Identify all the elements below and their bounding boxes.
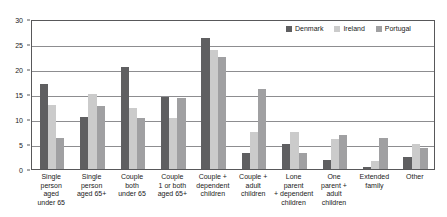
legend-swatch-icon <box>286 26 292 32</box>
y-tick-label: 25 <box>15 42 23 49</box>
y-tick-mark <box>27 145 30 146</box>
bar <box>40 84 48 169</box>
bar-group <box>396 21 436 169</box>
bar <box>299 153 307 169</box>
legend-label: Ireland <box>343 25 364 33</box>
bar <box>403 157 411 170</box>
legend-entry: Denmark <box>286 25 323 33</box>
bar <box>48 105 56 169</box>
y-tick-mark <box>27 170 30 171</box>
bar <box>290 132 298 169</box>
bar <box>218 57 226 170</box>
bar-group <box>153 21 193 169</box>
bar <box>129 108 137 170</box>
bars-layer <box>32 21 434 169</box>
bar-group <box>234 21 274 169</box>
y-tick-mark <box>27 20 30 21</box>
bar <box>331 139 339 169</box>
bar <box>323 160 331 170</box>
y-tick-mark <box>27 45 30 46</box>
y-tick-label: 20 <box>15 67 23 74</box>
bar <box>420 148 428 169</box>
bar-group <box>194 21 234 169</box>
bar <box>371 161 379 169</box>
bar <box>412 144 420 169</box>
bar <box>363 167 371 170</box>
bar-group <box>274 21 314 169</box>
y-tick-label: 30 <box>15 17 23 24</box>
bar <box>121 67 129 169</box>
legend-label: Denmark <box>295 25 323 33</box>
legend-label: Portugal <box>385 25 411 33</box>
y-tick-mark <box>27 120 30 121</box>
bar-group <box>72 21 112 169</box>
bar <box>97 106 105 169</box>
y-axis: 051015202530 <box>0 20 27 170</box>
bar-group <box>32 21 72 169</box>
x-axis: Singlepersonagedunder 65Singlepersonaged… <box>31 173 435 217</box>
plot-area <box>31 20 435 170</box>
bar <box>161 97 169 169</box>
y-tick-label: 15 <box>15 92 23 99</box>
bar <box>339 135 347 169</box>
legend-entry: Ireland <box>334 25 364 33</box>
bar-group <box>315 21 355 169</box>
bar <box>169 118 177 169</box>
y-tick-mark <box>27 70 30 71</box>
y-tick-label: 10 <box>15 117 23 124</box>
legend-entry: Portugal <box>376 25 411 33</box>
legend: DenmarkIrelandPortugal <box>286 25 411 33</box>
y-tick-mark <box>27 95 30 96</box>
bar <box>177 98 185 169</box>
bar <box>88 94 96 169</box>
bar-chart: 051015202530 DenmarkIrelandPortugal Sing… <box>0 0 447 217</box>
legend-swatch-icon <box>334 26 340 32</box>
bar <box>242 153 250 169</box>
bar <box>258 89 266 169</box>
y-tick-label: 0 <box>19 167 23 174</box>
bar-group <box>355 21 395 169</box>
bar <box>379 138 387 169</box>
bar <box>80 117 88 169</box>
bar <box>201 38 209 169</box>
bar <box>282 144 290 169</box>
bar <box>210 50 218 169</box>
bar <box>137 118 145 169</box>
bar <box>56 138 64 170</box>
y-tick-label: 5 <box>19 142 23 149</box>
x-category-label: Other <box>392 173 438 182</box>
bar <box>250 132 258 169</box>
legend-swatch-icon <box>376 26 382 32</box>
bar-group <box>113 21 153 169</box>
